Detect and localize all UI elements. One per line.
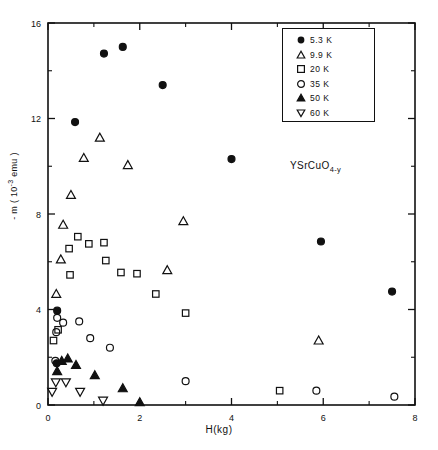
data-point-filled-triangle-up [90,371,99,379]
data-point-open-square [103,257,109,263]
y-axis-tick-label: 0 [36,401,41,411]
data-point-open-circle [182,378,189,385]
data-point-open-square [50,337,56,343]
data-point-open-triangle-up [314,336,323,344]
data-point-open-triangle-down [48,388,57,396]
data-point-open-circle [54,314,61,321]
open-triangle-down-icon [292,107,310,119]
data-point-open-triangle-up [66,190,75,198]
data-point-open-triangle-down [51,379,60,387]
data-point-open-triangle-up [79,153,88,161]
data-point-open-triangle-down [99,397,108,405]
y-axis-label-exponent: -3 [7,180,14,187]
sample-formula: YSrCuO [290,160,330,171]
data-point-filled-circle [72,119,79,126]
data-point-open-circle [391,393,398,400]
y-axis-tick-label: 12 [31,114,41,124]
data-point-open-square [153,291,159,297]
filled-triangle-up-icon [292,92,310,104]
data-point-open-triangle-up [95,133,104,141]
data-point-open-triangle-up [179,217,188,225]
open-square-icon [292,63,310,75]
legend-entry-label: 50 K [310,93,330,103]
data-point-open-circle [53,329,60,336]
data-point-filled-triangle-up [135,398,144,406]
open-triangle-up-icon [292,49,310,61]
filled-circle-icon [292,34,310,46]
legend-entry-label: 5.3 K [310,35,332,45]
y-axis-label: - m ( 10-3 emu ) [7,146,19,226]
data-point-open-circle [60,319,67,326]
legend: 5.3 K9.9 K20 K35 K50 K60 K [282,28,375,122]
data-point-filled-triangle-up [63,354,72,362]
x-axis-tick-label: 4 [229,413,234,423]
data-point-open-square [75,233,81,239]
legend-entry: 9.9 K [283,48,374,63]
data-point-filled-triangle-up [72,360,81,368]
data-point-filled-circle [228,156,235,163]
data-point-open-square [276,387,282,393]
data-point-open-triangle-up [52,290,61,298]
data-point-open-square [134,270,140,276]
y-axis-label-prefix: - m ( 10 [9,186,19,219]
legend-entry: 20 K [283,62,374,77]
data-point-open-square [86,241,92,247]
data-point-open-circle [76,318,83,325]
data-point-filled-triangle-up [118,384,127,392]
y-axis-tick-label: 4 [36,305,41,315]
data-point-open-triangle-up [123,161,132,169]
sample-composition-label: YSrCuO4-y [290,160,341,174]
sample-formula-subscript: 4-y [330,165,342,174]
legend-entry-label: 35 K [310,79,330,89]
data-point-open-circle [87,335,94,342]
legend-entry: 35 K [283,77,374,92]
scatter-plot-figure: 024680481216 - m ( 10-3 emu ) H(kg) YSrC… [0,0,438,450]
open-circle-icon [292,78,310,90]
x-axis-tick-label: 2 [137,413,142,423]
data-point-open-circle [313,387,320,394]
y-axis-tick-label: 16 [31,19,41,29]
data-point-open-square [118,269,124,275]
data-point-filled-circle [119,43,126,50]
data-point-filled-circle [159,82,166,89]
x-axis-tick-label: 8 [412,413,417,423]
x-axis-label: H(kg) [0,424,438,435]
data-point-open-square [66,245,72,251]
data-point-open-triangle-down [76,388,85,396]
legend-entry: 5.3 K [283,33,374,48]
x-axis-tick-label: 6 [321,413,326,423]
data-point-open-square [182,310,188,316]
data-point-filled-circle [54,307,61,314]
data-point-filled-circle [100,50,107,57]
data-point-open-triangle-up [59,220,68,228]
data-point-filled-triangle-up [53,367,62,375]
data-point-open-triangle-up [56,255,65,263]
data-point-filled-circle [389,288,396,295]
data-point-filled-circle [317,238,324,245]
data-point-open-square [101,239,107,245]
y-axis-label-suffix: emu ) [9,152,19,179]
legend-entry-label: 60 K [310,108,330,118]
x-axis-tick-label: 0 [45,413,50,423]
legend-entry-label: 20 K [310,64,330,74]
data-point-open-triangle-down [61,379,70,387]
data-point-open-square [67,272,73,278]
legend-entry: 50 K [283,91,374,106]
legend-entry: 60 K [283,106,374,121]
y-axis-tick-label: 8 [36,210,41,220]
data-point-open-triangle-up [163,266,172,274]
data-point-open-circle [106,344,113,351]
legend-entry-label: 9.9 K [310,50,332,60]
